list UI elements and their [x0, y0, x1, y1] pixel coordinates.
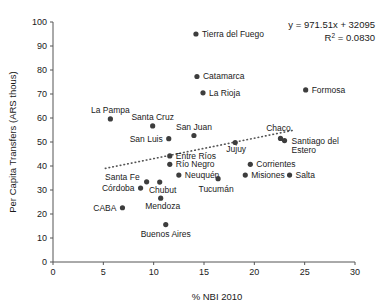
data-point — [144, 179, 149, 184]
data-point-label: Córdoba — [102, 183, 135, 193]
y-axis-title: Per Capita Transfers (ARS thous) — [7, 71, 18, 213]
y-tick-label: 80 — [37, 65, 47, 75]
data-point — [243, 173, 248, 178]
data-point-label: San Luis — [130, 134, 163, 144]
data-point-label: Corrientes — [256, 159, 295, 169]
y-tick-label: 50 — [37, 137, 47, 147]
data-point — [120, 205, 125, 210]
data-point-label: Catamarca — [203, 71, 245, 81]
x-tick-label: 30 — [350, 267, 360, 277]
data-point-label: Neuquén — [185, 170, 220, 180]
data-point-label: Buenos Aires — [141, 229, 191, 239]
data-point-label: Formosa — [312, 85, 346, 95]
data-point-label: Chaco — [266, 123, 291, 133]
x-tick-label: 10 — [149, 267, 159, 277]
r-squared-value: R2 = 0.0830 — [325, 32, 375, 44]
data-point-label: Jujuy — [226, 144, 247, 154]
data-point-label: San Juan — [176, 122, 212, 132]
data-point — [287, 173, 292, 178]
data-point-label: CABA — [93, 203, 116, 213]
data-point — [108, 116, 113, 121]
x-tick-label: 0 — [50, 267, 55, 277]
data-point — [215, 176, 220, 181]
data-point-label: Río Negro — [176, 159, 215, 169]
y-tick-label: 30 — [37, 185, 47, 195]
x-tick-label: 5 — [101, 267, 106, 277]
data-point — [303, 87, 308, 92]
data-point-label: Santa Cruz — [131, 112, 174, 122]
data-point-label: Misiones — [251, 170, 285, 180]
data-point-label: Santa Fe — [105, 172, 140, 182]
data-point-label: Tierra del Fuego — [202, 29, 264, 39]
x-tick-label: 20 — [249, 267, 259, 277]
x-tick-label: 15 — [199, 267, 209, 277]
data-point — [193, 31, 198, 36]
data-point-label: Salta — [296, 170, 316, 180]
data-point — [138, 185, 143, 190]
chart-canvas: 0102030405060708090100051015202530 Tierr… — [0, 0, 390, 306]
y-tick-label: 10 — [37, 233, 47, 243]
regression-equation: y = 971.51x + 32095 — [288, 19, 375, 30]
data-point-label: Estero — [292, 145, 317, 155]
data-point — [163, 222, 168, 227]
data-point — [282, 138, 287, 143]
y-tick-label: 60 — [37, 113, 47, 123]
x-tick-label: 25 — [300, 267, 310, 277]
data-point — [166, 136, 171, 141]
data-points: Tierra del FuegoCatamarcaLa RiojaFormosa… — [91, 29, 345, 239]
data-point — [200, 90, 205, 95]
data-point-label: La Rioja — [209, 88, 240, 98]
y-tick-label: 40 — [37, 161, 47, 171]
y-tick-label: 70 — [37, 89, 47, 99]
data-point-label: La Pampa — [91, 105, 130, 115]
scatter-chart: 0102030405060708090100051015202530 Tierr… — [0, 0, 390, 306]
data-point — [158, 196, 163, 201]
y-tick-label: 90 — [37, 41, 47, 51]
y-tick-label: 0 — [42, 257, 47, 267]
data-point — [150, 123, 155, 128]
data-point — [191, 133, 196, 138]
data-point — [157, 179, 162, 184]
x-axis-title: % NBI 2010 — [192, 291, 243, 302]
data-point-label: Tucumán — [199, 184, 234, 194]
data-point-label: Chubut — [149, 185, 177, 195]
data-point — [167, 153, 172, 158]
y-tick-label: 20 — [37, 209, 47, 219]
data-point — [194, 74, 199, 79]
data-point — [176, 173, 181, 178]
regression-annotation: y = 971.51x + 32095R2 = 0.0830 — [288, 19, 375, 43]
data-point — [248, 162, 253, 167]
data-point-label: Mendoza — [145, 201, 180, 211]
data-point — [167, 162, 172, 167]
y-tick-label: 100 — [32, 17, 47, 27]
